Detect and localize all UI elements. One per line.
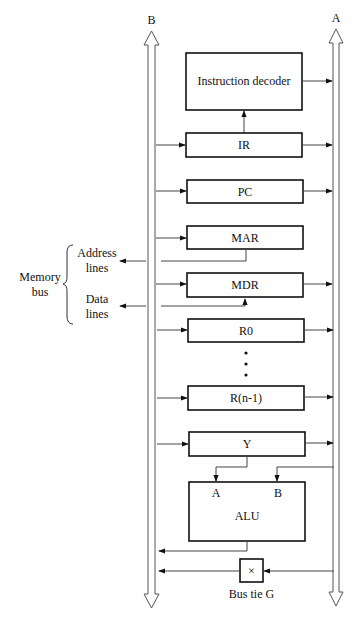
data-lines-label-line2: lines (86, 307, 109, 321)
bus-tie-symbol: × (248, 564, 255, 578)
address-lines-label-line1: Address (77, 246, 117, 260)
alu-input-b-label: B (274, 486, 282, 500)
memory-bus-brace (63, 245, 73, 324)
mdr-label: MDR (231, 278, 258, 292)
pc-label: PC (238, 185, 253, 199)
ir-label: IR (238, 138, 250, 152)
rn-1-register: R(n-1) (188, 386, 304, 410)
memory-bus-label-line2: bus (32, 285, 49, 299)
y-to-alu-a-wire (216, 456, 247, 481)
data-lines-to-mdr-wire (161, 299, 245, 306)
instruction-decoder-block: Instruction decoder (186, 53, 302, 110)
bus-b: B (144, 13, 159, 608)
rn-1-label: R(n-1) (230, 391, 262, 405)
y-register: Y (189, 432, 305, 456)
mdr-register: MDR (187, 273, 303, 297)
mar-register: MAR (187, 226, 303, 249)
alu-to-bus-b-wire (159, 541, 247, 551)
mar-to-address-lines-wire (161, 249, 246, 261)
bus-tie-label: Bus tie G (229, 587, 275, 601)
mar-label: MAR (231, 231, 258, 245)
bus-b-label: B (147, 13, 155, 27)
r0-register: R0 (188, 319, 304, 342)
address-lines-label-line2: lines (86, 261, 109, 275)
bus-a-label: A (332, 11, 341, 25)
alu-input-a-label: A (212, 486, 221, 500)
three-bus-cpu-diagram: B A Instruction decoder IR PC MAR MDR (0, 0, 359, 619)
bus-tie-g: × Bus tie G (229, 559, 275, 601)
ellipsis-dots (244, 351, 247, 376)
r0-label: R0 (239, 324, 253, 338)
alu-label: ALU (235, 509, 260, 523)
data-lines-label-line1: Data (86, 292, 109, 306)
alu-block: A B ALU (189, 482, 305, 541)
memory-bus-labels: Memory bus Address lines Data lines (19, 245, 117, 324)
bus-a: A (329, 11, 343, 606)
ir-register: IR (186, 133, 302, 157)
pc-register: PC (187, 180, 303, 203)
y-label: Y (243, 437, 252, 451)
instruction-decoder-label: Instruction decoder (198, 74, 291, 88)
bus-a-to-alu-b-wire (277, 467, 334, 481)
memory-bus-label-line1: Memory (19, 270, 60, 284)
